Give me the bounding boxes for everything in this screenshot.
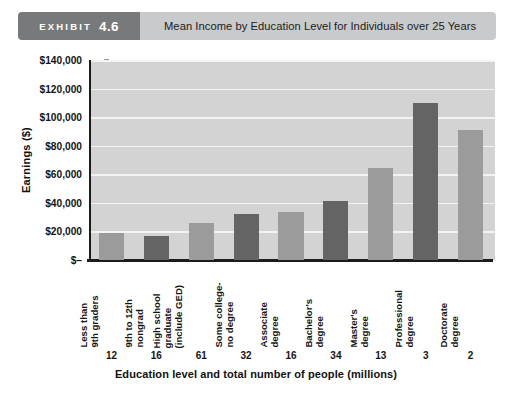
category-label-line: (include GED)	[174, 285, 185, 348]
exhibit-tag: EXHIBIT 4.6	[18, 12, 140, 40]
population-value: 16	[134, 350, 179, 361]
y-axis-tick-label: $40,000	[45, 197, 82, 208]
bar[interactable]	[144, 236, 169, 260]
population-value: 3	[403, 350, 448, 361]
x-axis-category-label: Bachelor'sdegree	[303, 299, 325, 348]
bar[interactable]	[368, 168, 393, 260]
x-axis-category-label: High schoolgraduate(include GED)	[153, 285, 185, 348]
x-axis-category-label: Doctoratedegree	[438, 303, 460, 348]
category-label-line: 9th graders	[90, 296, 101, 348]
category-label-line: no degree	[225, 283, 236, 348]
population-value: 34	[313, 350, 358, 361]
population-value: 12	[89, 350, 134, 361]
x-axis-category-label: 9th to 12thnongrad	[124, 299, 146, 348]
bar-slot	[269, 60, 314, 260]
category-label-line: degree	[449, 303, 460, 348]
category-label-line: degree	[359, 309, 370, 348]
category-label-line: degree	[314, 299, 325, 348]
bar[interactable]	[278, 212, 303, 260]
category-label-line: nongrad	[135, 299, 146, 348]
x-axis-population-values: 1216613216341332	[89, 350, 493, 361]
bar[interactable]	[323, 201, 348, 260]
exhibit-title: Mean Income by Education Level for Indiv…	[164, 20, 476, 32]
population-value: 16	[269, 350, 314, 361]
exhibit-header: EXHIBIT 4.6 Mean Income by Education Lev…	[18, 12, 496, 40]
bar-slot	[358, 60, 403, 260]
y-axis-labels: $140,000$120,000$100,000$80,000$60,000$4…	[20, 60, 82, 260]
bar[interactable]	[413, 103, 438, 260]
x-axis-category-label: Less than9th graders	[79, 296, 101, 348]
bar[interactable]	[99, 233, 124, 260]
bar-slot	[134, 60, 179, 260]
bar-slot	[179, 60, 224, 260]
x-axis-category-label: Some college-no degree	[214, 283, 236, 348]
y-axis-tick-label: $–	[71, 255, 82, 266]
bar-slot	[313, 60, 358, 260]
bar[interactable]	[189, 223, 214, 260]
population-value: 2	[448, 350, 493, 361]
x-axis-category-labels: Less than9th graders9th to 12thnongradHi…	[89, 264, 493, 348]
category-label-line: Master's	[348, 309, 359, 348]
bar-slot	[89, 60, 134, 260]
category-label-line: degree	[269, 303, 280, 348]
bar[interactable]	[234, 214, 259, 260]
y-axis-tick-label: $20,000	[45, 226, 82, 237]
population-value: 32	[224, 350, 269, 361]
x-axis-category-label: Master'sdegree	[348, 309, 370, 348]
exhibit-title-bar: Mean Income by Education Level for Indiv…	[140, 12, 496, 40]
category-label-line: Professional	[393, 290, 404, 348]
bar-slot	[224, 60, 269, 260]
exhibit-number: 4.6	[99, 19, 119, 34]
bar-chart: Earnings ($) $140,000$120,000$100,000$80…	[0, 46, 512, 398]
x-axis-category-label: Associatedegree	[259, 303, 281, 348]
category-label-line: Doctorate	[438, 303, 449, 348]
x-axis-category-label: Professionaldegree	[393, 290, 415, 348]
category-label-line: degree	[404, 290, 415, 348]
category-slot: Doctoratedegree	[448, 264, 493, 348]
y-axis-tick-label: $80,000	[45, 140, 82, 151]
population-value: 13	[358, 350, 403, 361]
y-axis-tick-label: $140,000	[40, 55, 83, 66]
bar-series	[89, 60, 493, 260]
x-axis-title: Education level and total number of peop…	[0, 368, 512, 380]
population-value: 61	[179, 350, 224, 361]
y-axis-tick-label: $120,000	[40, 83, 83, 94]
bar-slot	[403, 60, 448, 260]
y-axis-tick-label: $100,000	[40, 112, 83, 123]
y-axis-tick-label: $60,000	[45, 169, 82, 180]
exhibit-label: EXHIBIT	[39, 21, 92, 32]
bar[interactable]	[458, 130, 483, 260]
bar-slot	[448, 60, 493, 260]
